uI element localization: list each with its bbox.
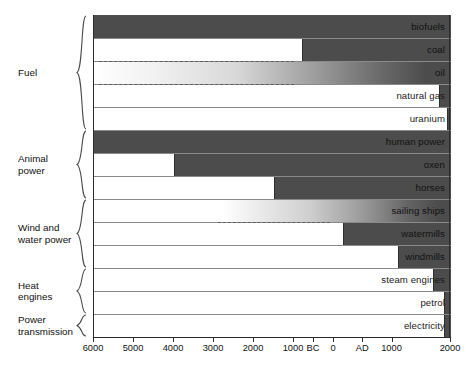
bar-label-human-power: human power	[386, 137, 445, 147]
group-label-line1: Fuel	[18, 67, 37, 78]
group-label-line1: Heat	[18, 280, 39, 291]
bar-label-uranium: uranium	[410, 114, 445, 124]
timeline-row-biofuels[interactable]: biofuels	[94, 15, 451, 38]
x-tick	[362, 337, 363, 342]
bar-label-steam-engines: steam engines	[381, 275, 445, 285]
group-label-line2: water power	[18, 234, 71, 245]
x-tick	[133, 337, 134, 342]
group-brace-wind-and-water-power	[76, 199, 87, 268]
x-tick-label-1000: 1000	[283, 343, 304, 353]
x-tick-label-2000: 2000	[243, 343, 264, 353]
group-label-line2: engines	[18, 291, 52, 302]
x-tick	[450, 337, 451, 342]
bar-left-edge	[274, 177, 275, 199]
group-label-line1: Power	[18, 314, 46, 325]
uncertainty-dashed-line	[99, 61, 294, 62]
x-tick-label-5000: 5000	[123, 343, 144, 353]
x-axis-line	[93, 337, 450, 338]
bar-left-edge	[174, 154, 175, 176]
timeline-row-horses[interactable]: horses	[94, 176, 451, 199]
group-label-animal-power: Animalpower	[18, 153, 48, 176]
x-tick	[173, 337, 174, 342]
timeline-row-steam-engines[interactable]: steam engines	[94, 268, 451, 291]
bar-label-oxen: oxen	[424, 160, 445, 170]
bar-label-petrol: petrol	[420, 298, 445, 308]
bar-oil	[94, 62, 451, 84]
bar-label-oil: oil	[435, 68, 445, 78]
x-tick	[293, 337, 294, 342]
x-tick	[392, 337, 393, 342]
plot-area: biofuelscoaloilnatural gasuraniumhuman p…	[93, 15, 450, 337]
bar-label-windmills: windmills	[405, 252, 445, 262]
bar-label-watermills: watermills	[401, 229, 445, 239]
bar-label-coal: coal	[427, 45, 445, 55]
x-tick	[93, 337, 94, 342]
x-tick	[313, 337, 314, 342]
timeline-row-oil[interactable]: oil	[94, 61, 451, 84]
group-label-line2: power	[18, 165, 45, 176]
group-brace-power-transmission	[76, 314, 87, 337]
energy-sources-timeline-chart: biofuelscoaloilnatural gasuraniumhuman p…	[0, 0, 466, 377]
x-tick-label-2000: 2000	[440, 343, 461, 353]
timeline-row-coal[interactable]: coal	[94, 38, 451, 61]
x-tick	[253, 337, 254, 342]
group-label-wind-and-water-power: Wind andwater power	[18, 222, 71, 245]
bar-left-edge	[302, 39, 303, 61]
bar-label-sailing-ships: sailing ships	[391, 206, 445, 216]
timeline-row-human-power[interactable]: human power	[94, 130, 451, 153]
timeline-row-natural-gas[interactable]: natural gas	[94, 84, 451, 107]
x-tick	[213, 337, 214, 342]
bar-left-edge	[398, 246, 399, 268]
bar-label-horses: horses	[416, 183, 445, 193]
plot-right-border	[449, 15, 450, 337]
x-tick-label-4000: 4000	[163, 343, 184, 353]
group-brace-fuel	[76, 15, 87, 130]
timeline-row-watermills[interactable]: watermills	[94, 222, 451, 245]
group-label-line1: Animal	[18, 153, 48, 164]
timeline-row-electricity[interactable]: electricity	[94, 314, 451, 337]
bar-oxen	[174, 154, 451, 176]
x-tick	[333, 337, 334, 342]
timeline-row-oxen[interactable]: oxen	[94, 153, 451, 176]
x-tick-label-AD: AD	[356, 343, 369, 353]
bar-left-edge	[343, 223, 344, 245]
bar-label-electricity: electricity	[404, 321, 445, 331]
timeline-row-windmills[interactable]: windmills	[94, 245, 451, 268]
group-label-line2: transmission	[18, 326, 73, 337]
group-label-line1: Wind and	[18, 222, 59, 233]
x-tick-label-3000: 3000	[203, 343, 224, 353]
uncertainty-dashed-line	[218, 222, 330, 223]
x-tick-label-BC: BC	[307, 343, 320, 353]
bar-label-natural-gas: natural gas	[396, 91, 445, 101]
uncertainty-dashed-line	[99, 84, 294, 85]
group-brace-heat-engines	[76, 268, 87, 314]
group-label-heat-engines: Heatengines	[18, 280, 52, 303]
timeline-row-petrol[interactable]: petrol	[94, 291, 451, 314]
timeline-row-sailing-ships[interactable]: sailing ships	[94, 199, 451, 222]
timeline-row-uranium[interactable]: uranium	[94, 107, 451, 130]
group-brace-animal-power	[76, 130, 87, 199]
x-tick-label-6000: 6000	[83, 343, 104, 353]
x-tick-label-0: 0	[330, 343, 335, 353]
bar-label-biofuels: biofuels	[411, 22, 445, 32]
x-tick-label-1000: 1000	[381, 343, 402, 353]
group-label-fuel: Fuel	[18, 67, 37, 79]
bar-biofuels	[94, 15, 451, 38]
group-label-power-transmission: Powertransmission	[18, 314, 73, 337]
